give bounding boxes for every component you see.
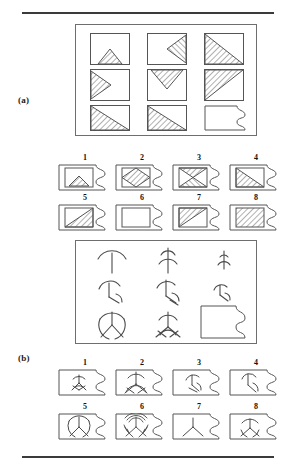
- option-a-2-number: 2: [115, 153, 169, 162]
- option-b-1-number: 1: [58, 358, 112, 367]
- matrix-b-cell-r1c1: [90, 245, 134, 275]
- option-b-3-number: 3: [172, 358, 226, 367]
- option-a-3[interactable]: 3: [172, 164, 226, 191]
- glyph-tri-spoke-arcs: [146, 309, 190, 341]
- option-b-4[interactable]: 4: [229, 369, 283, 396]
- option-a-6-number: 6: [115, 193, 169, 202]
- glyph-triangle-right: [90, 69, 130, 101]
- option-tile: [58, 204, 112, 231]
- option-tile: [229, 204, 283, 231]
- matrix-b-cell-r3c3-missing[interactable]: [200, 305, 250, 339]
- matrix-panel-b: [75, 240, 257, 344]
- glyph-missing-puzzle-piece: [204, 105, 250, 131]
- option-a-5-number: 5: [58, 193, 112, 202]
- option-tile: [172, 164, 226, 191]
- option-a-6[interactable]: 6: [115, 204, 169, 231]
- matrix-b-cell-r2c2: [146, 277, 190, 307]
- matrix-a-cell-r1c1: [90, 33, 130, 65]
- option-a-4[interactable]: 4: [229, 164, 283, 191]
- matrix-b-cell-r1c2: [146, 245, 190, 275]
- option-tile: [172, 204, 226, 231]
- glyph-spokes-2-branch-double: [146, 277, 190, 307]
- glyph-spokes-2-branch-small: [202, 277, 246, 307]
- glyph-triangle-up-small: [90, 33, 130, 65]
- matrix-a-cell-r1c2: [147, 33, 187, 65]
- glyph-triangle-lower-left-full: [147, 105, 187, 131]
- bottom-horizontal-rule: [22, 456, 274, 458]
- glyph-missing-puzzle-piece: [200, 305, 250, 339]
- option-a-3-number: 3: [172, 153, 226, 162]
- option-b-7[interactable]: 7: [172, 413, 226, 440]
- option-tile: [58, 413, 112, 440]
- matrix-a-cell-r3c3-missing[interactable]: [204, 105, 250, 131]
- matrix-b-cell-r2c3: [202, 277, 246, 307]
- option-tile: [115, 369, 169, 396]
- glyph-triangle-lower-left-full: [90, 105, 130, 131]
- glyph-triangle-upper-left-large: [204, 69, 244, 101]
- panel-label-b: (b): [18, 353, 30, 363]
- option-tile: [229, 413, 283, 440]
- option-b-8-number: 8: [229, 402, 283, 411]
- matrix-b-cell-r3c2: [146, 309, 190, 341]
- glyph-triangle-down: [147, 69, 187, 101]
- option-tile: [172, 369, 226, 396]
- option-a-7[interactable]: 7: [172, 204, 226, 231]
- glyph-spokes-1-arc-top: [90, 245, 134, 275]
- option-b-6[interactable]: 6: [115, 413, 169, 440]
- matrix-b-cell-r3c1: [90, 309, 134, 341]
- option-tile: [229, 164, 283, 191]
- option-a-2[interactable]: 2: [115, 164, 169, 191]
- glyph-triangle-lower-left-large: [204, 33, 244, 65]
- matrix-b-cell-r1c3: [202, 245, 246, 275]
- matrix-a-cell-r2c1: [90, 69, 130, 101]
- option-tile: [172, 413, 226, 440]
- option-tile: [229, 369, 283, 396]
- option-a-1-number: 1: [58, 153, 112, 162]
- glyph-spokes-2-arc-top: [146, 245, 190, 275]
- option-a-4-number: 4: [229, 153, 283, 162]
- option-b-1[interactable]: 1: [58, 369, 112, 396]
- option-a-5[interactable]: 5: [58, 204, 112, 231]
- option-b-3[interactable]: 3: [172, 369, 226, 396]
- option-tile: [58, 369, 112, 396]
- matrix-a-cell-r2c3: [204, 69, 244, 101]
- option-b-2[interactable]: 2: [115, 369, 169, 396]
- glyph-tri-spoke-circle: [90, 309, 134, 341]
- matrix-a-cell-r2c2: [147, 69, 187, 101]
- option-a-8[interactable]: 8: [229, 204, 283, 231]
- option-b-6-number: 6: [115, 402, 169, 411]
- panel-label-a: (a): [18, 95, 29, 105]
- matrix-panel-a: [75, 24, 257, 136]
- option-b-5[interactable]: 5: [58, 413, 112, 440]
- matrix-b-cell-r2c1: [90, 277, 134, 307]
- option-b-4-number: 4: [229, 358, 283, 367]
- option-tile: [115, 204, 169, 231]
- glyph-triangle-left: [147, 33, 187, 65]
- option-a-1[interactable]: 1: [58, 164, 112, 191]
- matrix-a-cell-r3c2: [147, 105, 187, 131]
- option-a-7-number: 7: [172, 193, 226, 202]
- option-b-8[interactable]: 8: [229, 413, 283, 440]
- option-tile: [58, 164, 112, 191]
- option-a-8-number: 8: [229, 193, 283, 202]
- glyph-spokes-2-branch: [90, 277, 134, 307]
- glyph-spokes-3-arc-small: [202, 245, 246, 275]
- option-b-5-number: 5: [58, 402, 112, 411]
- option-b-2-number: 2: [115, 358, 169, 367]
- top-horizontal-rule: [22, 12, 274, 14]
- option-tile: [115, 164, 169, 191]
- option-tile: [115, 413, 169, 440]
- matrix-a-cell-r3c1: [90, 105, 130, 131]
- option-b-7-number: 7: [172, 402, 226, 411]
- matrix-a-cell-r1c3: [204, 33, 244, 65]
